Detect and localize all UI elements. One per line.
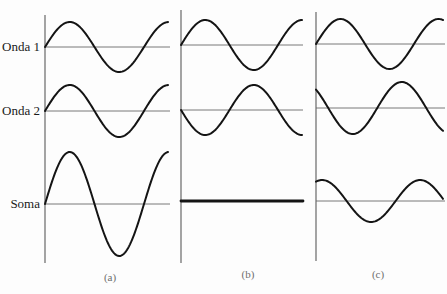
row-label-sum: Soma [10, 196, 40, 211]
panel-b-label: (b) [242, 268, 255, 281]
wave-interference-diagram: Onda 1 Onda 2 Soma (a) (b) (c) [0, 0, 447, 294]
panel-b: (b) [181, 10, 303, 281]
panel-c: (c) [316, 12, 445, 281]
panel-a-label: (a) [104, 271, 117, 284]
panel-a: (a) [45, 15, 170, 284]
row-label-wave-1: Onda 1 [2, 39, 40, 54]
panel-c-label: (c) [372, 268, 385, 281]
row-label-wave-2: Onda 2 [2, 103, 40, 118]
